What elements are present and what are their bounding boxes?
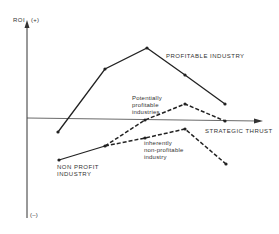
potentially-label-1: Potentially (132, 95, 162, 102)
x-axis-arrow-icon (254, 119, 263, 124)
non-profit-label-2: INDUSTRY (57, 171, 92, 178)
non-profit-industry-line (59, 146, 105, 160)
inherently-label-2: non-profitable (144, 147, 184, 154)
x-axis-label: STRATEGIC THRUST (205, 128, 273, 135)
positive-label: (+) (31, 17, 39, 24)
negative-label: (–) (30, 212, 38, 219)
y-axis-arrow-icon (25, 20, 30, 28)
potentially-label-2: profitable (132, 102, 159, 109)
profitable-industry-label: PROFITABLE INDUSTRY (166, 53, 245, 60)
roi-label: ROI (13, 17, 25, 24)
potentially-label-3: industries (132, 109, 160, 116)
inherently-label-3: industry (144, 154, 167, 161)
non-profit-label-1: NON PROFIT (57, 164, 99, 171)
inherently-label-1: inherently (144, 140, 172, 147)
roi-strategic-thrust-diagram (0, 0, 279, 234)
